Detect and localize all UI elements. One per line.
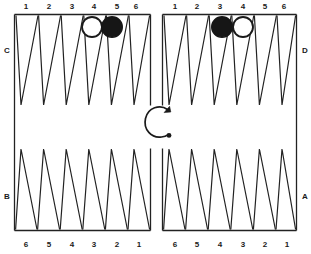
point-number-bottom-left-6: 6 xyxy=(20,240,32,249)
point-bottom-right-3 xyxy=(231,149,253,230)
points-bottom-left xyxy=(16,149,150,230)
board-frame-right xyxy=(163,15,297,231)
corner-label-d: D xyxy=(300,46,310,55)
point-number-top-right-6: 6 xyxy=(278,2,290,11)
point-number-top-left-3: 3 xyxy=(66,2,78,11)
corner-label-a: A xyxy=(300,192,310,201)
point-number-top-left-5: 5 xyxy=(111,2,123,11)
point-bottom-right-1 xyxy=(276,149,296,230)
point-number-bottom-right-5: 5 xyxy=(191,240,203,249)
point-number-top-left-4: 4 xyxy=(88,2,100,11)
point-number-top-left-2: 2 xyxy=(43,2,55,11)
point-number-top-right-1: 1 xyxy=(169,2,181,11)
point-bottom-left-4 xyxy=(60,149,82,230)
point-number-top-left-6: 6 xyxy=(130,2,142,11)
point-bottom-left-5 xyxy=(38,149,60,230)
point-top-right-2 xyxy=(187,16,209,106)
corner-label-b: B xyxy=(2,192,12,201)
point-bottom-right-2 xyxy=(253,149,275,230)
point-number-bottom-left-2: 2 xyxy=(111,240,123,249)
arrow-arc xyxy=(145,107,168,137)
checkers-layer xyxy=(82,17,253,37)
point-bottom-left-1 xyxy=(128,149,150,230)
point-bottom-right-4 xyxy=(208,149,230,230)
point-number-bottom-right-6: 6 xyxy=(169,240,181,249)
checker-black-top-left-point-5[interactable] xyxy=(102,17,122,37)
arrow-tail-dot-icon xyxy=(167,133,172,138)
point-top-right-5 xyxy=(254,16,276,106)
point-bottom-left-2 xyxy=(105,149,127,230)
point-number-bottom-left-1: 1 xyxy=(133,240,145,249)
point-number-top-right-3: 3 xyxy=(214,2,226,11)
point-number-bottom-left-5: 5 xyxy=(43,240,55,249)
point-top-left-3 xyxy=(61,16,83,106)
point-number-bottom-left-4: 4 xyxy=(66,240,78,249)
checker-white-top-left-point-4[interactable] xyxy=(82,17,102,37)
point-number-top-left-1: 1 xyxy=(20,2,32,11)
point-number-top-right-2: 2 xyxy=(191,2,203,11)
point-top-left-1 xyxy=(16,16,38,106)
point-number-bottom-right-2: 2 xyxy=(259,240,271,249)
point-number-top-right-4: 4 xyxy=(237,2,249,11)
checker-black-top-right-point-3[interactable] xyxy=(212,17,232,37)
point-top-right-1 xyxy=(164,16,186,106)
point-bottom-left-3 xyxy=(83,149,105,230)
checker-white-top-right-point-4[interactable] xyxy=(233,17,253,37)
point-number-bottom-right-1: 1 xyxy=(281,240,293,249)
point-top-left-2 xyxy=(39,16,61,106)
board-graphics xyxy=(0,0,311,254)
counterclockwise-direction-arrow xyxy=(145,106,171,138)
corner-label-c: C xyxy=(2,46,12,55)
point-number-bottom-right-4: 4 xyxy=(214,240,226,249)
point-number-top-right-5: 5 xyxy=(259,2,271,11)
point-number-bottom-right-3: 3 xyxy=(237,240,249,249)
points-bottom-right xyxy=(164,149,296,230)
backgammon-board-diagram: 1 2 3 4 5 6 1 2 3 4 5 6 6 5 4 3 2 1 6 5 … xyxy=(0,0,311,254)
point-top-left-6 xyxy=(129,16,150,106)
point-bottom-right-5 xyxy=(186,149,208,230)
point-bottom-left-6 xyxy=(16,149,37,230)
point-number-bottom-left-3: 3 xyxy=(88,240,100,249)
point-bottom-right-6 xyxy=(164,149,185,230)
point-top-right-6 xyxy=(277,16,296,106)
